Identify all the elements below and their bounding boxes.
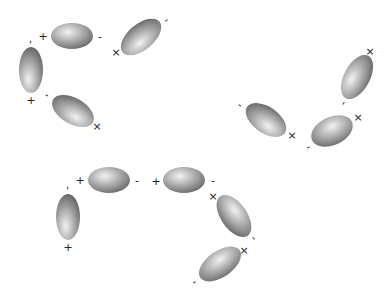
- dipole-ellipsoid: [334, 50, 379, 105]
- cross-charge-label: ×: [353, 111, 362, 124]
- minus-charge-label: -: [336, 98, 349, 108]
- plus-charge-label: +: [151, 175, 160, 188]
- dipole-ellipsoid: [88, 167, 130, 193]
- cross-charge-label: ×: [92, 120, 101, 133]
- minus-charge-label: -: [160, 14, 171, 27]
- dipole-layer: [19, 12, 380, 289]
- cross-charge-label: ×: [239, 244, 248, 257]
- cross-charge-label: ×: [365, 45, 374, 58]
- minus-charge-label: -: [25, 40, 38, 44]
- charge-label-layer: +--+×--×-××-×-+--++-×-×-: [25, 14, 375, 289]
- dipole-ellipsoid: [51, 23, 93, 49]
- plus-charge-label: +: [63, 241, 72, 254]
- dipole-ellipsoid: [240, 96, 293, 144]
- dipole-ellipsoid: [306, 109, 358, 153]
- dipole-ellipsoid: [56, 194, 80, 240]
- minus-charge-label: -: [98, 30, 102, 43]
- minus-charge-label: -: [248, 233, 261, 244]
- minus-charge-label: -: [211, 174, 215, 187]
- cross-charge-label: ×: [111, 46, 120, 59]
- plus-charge-label: +: [38, 30, 47, 43]
- dipole-ellipsoid: [19, 47, 43, 93]
- plus-charge-label: +: [75, 174, 84, 187]
- minus-charge-label: -: [303, 140, 312, 153]
- minus-charge-label: -: [235, 98, 245, 111]
- cross-charge-label: ×: [208, 190, 217, 203]
- dipole-ellipsoid: [114, 12, 167, 63]
- dipole-diagram: +--+×--×-××-×-+--++-×-×-: [0, 0, 392, 292]
- cross-charge-label: ×: [287, 129, 296, 142]
- minus-charge-label: -: [42, 88, 52, 101]
- minus-charge-label: -: [189, 276, 200, 289]
- dipole-ellipsoid: [163, 167, 205, 193]
- minus-charge-label: -: [135, 174, 139, 187]
- minus-charge-label: -: [62, 186, 75, 190]
- plus-charge-label: +: [26, 94, 35, 107]
